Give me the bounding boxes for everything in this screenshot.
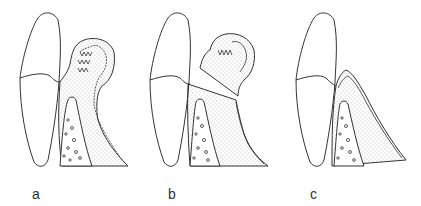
diagram-gingivectomy-incision xyxy=(140,0,280,206)
tooth-crown-root xyxy=(150,13,190,166)
diagram-healed-gingiva xyxy=(280,0,421,206)
diagram-tooth-gingival-overgrowth xyxy=(0,0,140,206)
tooth-crown-root xyxy=(20,13,60,166)
panel-c: c xyxy=(280,0,421,206)
panel-label-a: a xyxy=(32,186,40,202)
panel-a: a xyxy=(0,0,140,206)
panel-label-c: c xyxy=(310,186,317,202)
tooth-crown-root xyxy=(296,13,336,166)
panel-b: b xyxy=(140,0,280,206)
excised-gingival-tissue xyxy=(200,34,255,96)
panel-label-b: b xyxy=(168,186,176,202)
